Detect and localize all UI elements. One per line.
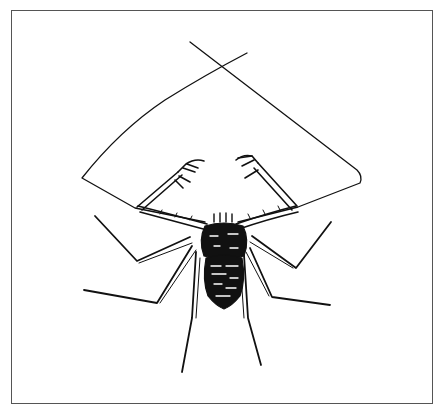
pedipalps: [137, 156, 298, 231]
abdomen-icon: [204, 255, 243, 309]
whip-spider-illustration: [0, 0, 445, 413]
body: [201, 213, 247, 309]
carapace-icon: [201, 223, 247, 259]
right-antenna-icon: [190, 42, 361, 222]
left-antenna-icon: [82, 53, 247, 222]
antennae: [82, 42, 361, 222]
